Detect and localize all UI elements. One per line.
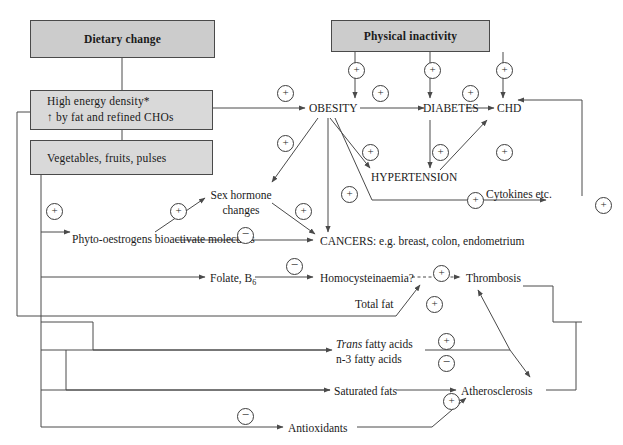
node-sex-hormone-changes[interactable]: Sex hormone changes: [208, 188, 274, 218]
sign-badge-obesity-htn: +: [362, 144, 379, 161]
sign-badge-totalfat-thromb: +: [426, 296, 443, 313]
trans-italic: Trans: [336, 338, 362, 350]
node-chd-label: CHD: [497, 102, 521, 114]
sex-hormone-line1: Sex hormone: [210, 189, 271, 201]
node-n3-label: n-3 fatty acids: [336, 353, 402, 365]
sign-badge-obesity-diabetes: +: [372, 85, 389, 102]
phyto-line1: Phyto-oestrogens: [72, 233, 152, 245]
trans-rest: fatty acids: [362, 338, 412, 350]
sign-badge-cytokines-chd: +: [467, 192, 484, 209]
box-physical-inactivity[interactable]: Physical inactivity: [331, 20, 490, 52]
box-vegetables-fruits-pulses[interactable]: Vegetables, fruits, pulses: [30, 140, 213, 175]
sign-badge-sexhorm-cancers: +: [295, 203, 312, 220]
sign-badge-htn-chd: +: [496, 144, 513, 161]
node-folate-label: Folate, B: [210, 272, 252, 284]
node-thrombosis[interactable]: Thrombosis: [466, 271, 521, 286]
node-trans-fatty-acids[interactable]: Trans fatty acids: [336, 337, 413, 352]
node-diabetes-label: DIABETES: [423, 102, 479, 114]
node-antioxidants-label: Antioxidants: [288, 422, 347, 434]
box-physical-inactivity-label: Physical inactivity: [364, 30, 458, 42]
sign-badge-trans-plus: +: [438, 333, 455, 350]
sign-badge-diabetes-htn: +: [432, 144, 449, 161]
node-saturated-fats-label: Saturated fats: [334, 385, 397, 397]
node-atherosclerosis-label: Atherosclerosis: [461, 385, 533, 397]
node-antioxidants[interactable]: Antioxidants: [288, 421, 347, 436]
box-dietary-change[interactable]: Dietary change: [30, 20, 215, 58]
high-energy-density-line2: ↑ by fat and refined CHOs: [47, 110, 174, 126]
node-total-fat[interactable]: Total fat: [355, 297, 393, 312]
node-homocysteinaemia-label: Homocysteinaemia?: [320, 272, 414, 284]
sign-badge-pi-diabetes: +: [424, 62, 441, 79]
node-total-fat-label: Total fat: [355, 298, 393, 310]
node-hypertension[interactable]: HYPERTENSION: [371, 170, 457, 185]
node-homocysteinaemia[interactable]: Homocysteinaemia?: [320, 271, 414, 286]
sign-badge-homocys-thromb: +: [433, 265, 450, 282]
high-energy-density-line1: High energy density*: [47, 94, 150, 110]
node-cancers-label: CANCERS: e.g. breast, colon, endometrium: [320, 235, 524, 247]
node-folate-b6[interactable]: Folate, B6: [210, 271, 256, 289]
node-cancers[interactable]: CANCERS: e.g. breast, colon, endometrium: [320, 234, 524, 249]
node-n3-fatty-acids[interactable]: n-3 fatty acids: [336, 352, 402, 367]
sign-badge-hed-obesity: +: [277, 85, 294, 102]
sign-badge-obesity-cancers: +: [341, 186, 358, 203]
diagram-canvas: Thrombosis dashed --> Dietary change Phy…: [0, 0, 623, 445]
node-obesity[interactable]: OBESITY: [309, 101, 358, 116]
node-hypertension-label: HYPERTENSION: [371, 171, 457, 183]
node-cytokines[interactable]: Cytokines etc.: [486, 187, 552, 202]
sign-badge-n3-minus: −: [438, 355, 455, 372]
sign-badge-right-loop: +: [595, 197, 612, 214]
folate-subscript: 6: [252, 278, 256, 287]
node-saturated-fats[interactable]: Saturated fats: [334, 384, 397, 399]
sign-badge-phyto-sexhorm: +: [170, 203, 187, 220]
node-diabetes[interactable]: DIABETES: [423, 101, 479, 116]
node-cytokines-label: Cytokines etc.: [486, 188, 552, 200]
sign-badge-veg-phyto: +: [46, 203, 63, 220]
node-thrombosis-label: Thrombosis: [466, 272, 521, 284]
box-vegetables-label: Vegetables, fruits, pulses: [47, 152, 167, 164]
node-obesity-label: OBESITY: [309, 102, 358, 114]
connector-layer: Thrombosis dashed -->: [0, 0, 623, 445]
sign-badge-satfat-athero: +: [443, 393, 460, 410]
sign-badge-pi-obesity: +: [348, 62, 365, 79]
node-atherosclerosis[interactable]: Atherosclerosis: [461, 384, 533, 399]
sex-hormone-line2: changes: [222, 204, 259, 216]
node-phyto-oestrogens[interactable]: Phyto-oestrogens bioactivate molecules: [72, 232, 255, 247]
sign-badge-phyto-cancers: −: [237, 227, 254, 244]
sign-badge-folate-homocys: −: [286, 258, 303, 275]
sign-badge-hed-sexhorm: +: [277, 135, 294, 152]
sign-badge-diabetes-chd: +: [462, 85, 479, 102]
sign-badge-pi-chd: +: [496, 62, 513, 79]
box-high-energy-density[interactable]: High energy density* ↑ by fat and refine…: [30, 90, 213, 130]
sign-badge-antiox-athero: −: [237, 408, 254, 425]
node-chd[interactable]: CHD: [497, 101, 521, 116]
box-dietary-change-label: Dietary change: [84, 33, 161, 45]
